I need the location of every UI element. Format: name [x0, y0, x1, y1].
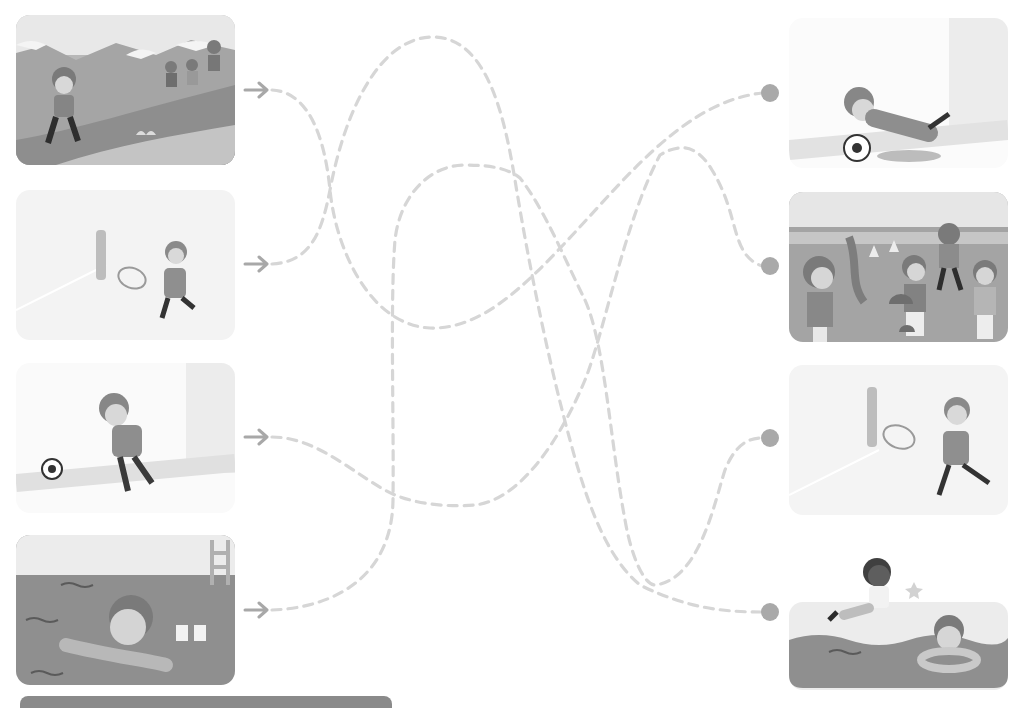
right-card-field-group[interactable]: [789, 192, 1008, 342]
path-l3-to-r2[interactable]: [272, 148, 762, 506]
tennis-run-scene-illustration: [789, 365, 1008, 515]
left-card-swimming-struggle[interactable]: [16, 535, 235, 685]
circle-dot-icon: [761, 603, 779, 621]
swimming-struggle-scene-illustration: [16, 535, 235, 685]
pool-jump-scene-illustration: [789, 530, 1008, 690]
path-l2-to-r4[interactable]: [272, 37, 762, 612]
bottom-banner-edge: [20, 696, 392, 708]
path-l4-to-r3[interactable]: [272, 165, 762, 610]
arrow-right-icon: [243, 600, 271, 620]
arrow-right-icon: [243, 254, 271, 274]
right-card-goalkeeper[interactable]: [789, 18, 1008, 168]
path-l1-to-r1[interactable]: [272, 90, 762, 328]
right-card-pool-jump[interactable]: [789, 530, 1008, 690]
field-group-scene-illustration: [789, 192, 1008, 342]
tennis-scene-illustration: [16, 190, 235, 340]
hiking-scene-illustration: [16, 15, 235, 165]
circle-dot-icon: [761, 257, 779, 275]
left-card-tennis[interactable]: [16, 190, 235, 340]
soccer-kick-scene-illustration: [16, 363, 235, 513]
arrow-right-icon: [243, 80, 271, 100]
right-card-tennis-run[interactable]: [789, 365, 1008, 515]
circle-dot-icon: [761, 84, 779, 102]
goalkeeper-scene-illustration: [789, 18, 1008, 168]
left-card-hiking[interactable]: [16, 15, 235, 165]
arrow-right-icon: [243, 427, 271, 447]
circle-dot-icon: [761, 429, 779, 447]
left-card-soccer-kick[interactable]: [16, 363, 235, 513]
